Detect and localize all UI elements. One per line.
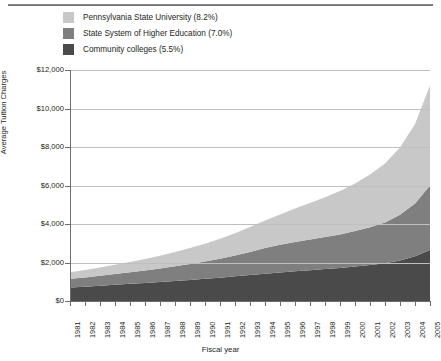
x-axis-tick-label: 2002 xyxy=(388,322,397,338)
y-axis-line xyxy=(70,70,71,301)
x-axis-tick-label: 1990 xyxy=(208,322,217,338)
x-axis-tick xyxy=(325,302,326,306)
y-axis-tick-labels: $0$2,000$4,000$6,000$8,000$10,000$12,000 xyxy=(0,0,64,361)
x-axis-tick-label: 1988 xyxy=(178,322,187,338)
x-axis-tick xyxy=(70,302,71,306)
x-axis-tick xyxy=(310,302,311,306)
x-axis-tick xyxy=(295,302,296,306)
x-axis-tick xyxy=(415,302,416,306)
x-axis-tick xyxy=(265,302,266,306)
x-axis-tick-label: 1996 xyxy=(298,322,307,338)
gridline xyxy=(70,147,430,148)
x-axis-tick-label: 1997 xyxy=(313,322,322,338)
y-axis-tick-label: $0 xyxy=(6,296,64,305)
x-axis-tick xyxy=(145,302,146,306)
x-axis-tick-labels: 1981198219831984198519861987198819891990… xyxy=(70,308,435,342)
x-axis-tick-label: 1995 xyxy=(283,322,292,338)
x-axis-tick-label: 2005 xyxy=(433,322,441,338)
legend-item-label: Pennsylvania State University (8.2%) xyxy=(83,12,218,23)
x-axis-tick xyxy=(100,302,101,306)
x-axis-tick xyxy=(85,302,86,306)
x-axis-tick xyxy=(235,302,236,306)
x-axis-title: Fiscal year xyxy=(0,345,441,354)
x-axis-tick-label: 1991 xyxy=(223,322,232,338)
x-axis-ticks xyxy=(70,302,431,307)
x-axis-tick xyxy=(190,302,191,306)
legend-swatch-cc xyxy=(63,44,74,55)
legend-item-label: State System of Higher Education (7.0%) xyxy=(83,28,232,39)
x-axis-tick-label: 2003 xyxy=(403,322,412,338)
legend-item: State System of Higher Education (7.0%) xyxy=(63,27,232,40)
x-axis-tick xyxy=(250,302,251,306)
gridline xyxy=(70,70,430,71)
x-axis-tick-label: 2000 xyxy=(358,322,367,338)
x-axis-tick xyxy=(355,302,356,306)
gridline xyxy=(70,186,430,187)
x-axis-tick xyxy=(385,302,386,306)
x-axis-tick-label: 1986 xyxy=(148,322,157,338)
x-axis-tick-label: 1981 xyxy=(73,322,82,338)
gridline xyxy=(70,224,430,225)
x-axis-tick-label: 1982 xyxy=(88,322,97,338)
legend-item-label: Community colleges (5.5%) xyxy=(83,44,183,55)
x-axis-tick xyxy=(340,302,341,306)
x-axis-tick xyxy=(160,302,161,306)
x-axis-tick xyxy=(430,302,431,306)
x-axis-tick-label: 1992 xyxy=(238,322,247,338)
gridline xyxy=(70,109,430,110)
y-axis-tick-label: $8,000 xyxy=(6,142,64,151)
x-axis-tick-label: 1999 xyxy=(343,322,352,338)
y-axis-tick-label: $10,000 xyxy=(6,104,64,113)
legend-item: Community colleges (5.5%) xyxy=(63,43,232,56)
x-axis-tick xyxy=(115,302,116,306)
gridlines xyxy=(70,70,430,301)
x-axis-tick-label: 1985 xyxy=(133,322,142,338)
x-axis-tick-label: 2001 xyxy=(373,322,382,338)
y-axis-tick-label: $4,000 xyxy=(6,219,64,228)
x-axis-tick-label: 2004 xyxy=(418,322,427,338)
plot-area xyxy=(70,70,430,301)
x-axis-tick xyxy=(175,302,176,306)
x-axis-tick-label: 1994 xyxy=(268,322,277,338)
y-axis-tick-label: $12,000 xyxy=(6,65,64,74)
x-axis-tick-label: 1993 xyxy=(253,322,262,338)
y-axis-tick-label: $6,000 xyxy=(6,181,64,190)
gridline xyxy=(70,263,430,264)
x-axis-tick-label: 1987 xyxy=(163,322,172,338)
x-axis-tick-label: 1984 xyxy=(118,322,127,338)
x-axis-tick-label: 1998 xyxy=(328,322,337,338)
x-axis-tick xyxy=(370,302,371,306)
x-axis-tick xyxy=(400,302,401,306)
x-axis-tick xyxy=(220,302,221,306)
legend-swatch-sshe xyxy=(63,28,74,39)
chart-legend: Pennsylvania State University (8.2%)Stat… xyxy=(63,11,232,59)
y-axis-tick-label: $2,000 xyxy=(6,258,64,267)
legend-swatch-psu xyxy=(63,12,74,23)
x-axis-tick xyxy=(205,302,206,306)
header-divider xyxy=(8,4,433,6)
x-axis-tick xyxy=(280,302,281,306)
x-axis-tick xyxy=(130,302,131,306)
x-axis-tick-label: 1983 xyxy=(103,322,112,338)
x-axis-tick-label: 1989 xyxy=(193,322,202,338)
legend-item: Pennsylvania State University (8.2%) xyxy=(63,11,232,24)
